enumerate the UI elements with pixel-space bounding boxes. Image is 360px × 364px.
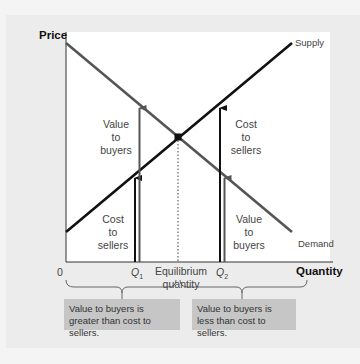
text-line: to [230,226,268,239]
q2-main: Q [216,266,224,278]
text-line: to [98,131,134,144]
text-line: to [226,131,266,144]
text-line: buyers [98,144,134,157]
left-note-box: Value to buyers is greater than cost to … [64,299,180,330]
q2-sub: 2 [224,273,228,280]
right-note-box: Value to buyers is less than cost to sel… [192,299,296,330]
origin-label: 0 [57,266,63,278]
q1-sub: 1 [139,273,143,280]
demand-label: Demand [298,238,334,249]
left-cost-to-sellers: Cost to sellers [94,213,132,252]
text-line: buyers [230,239,268,252]
text-line: sellers [94,239,132,252]
x-axis-title: Quantity [296,265,343,277]
text-line: sellers [226,144,266,157]
text-line: to [94,226,132,239]
supply-demand-chart [0,0,360,364]
right-value-to-buyers: Value to buyers [230,213,268,252]
equilibrium-point [175,134,182,141]
equilibrium-quantity-label: Equilibrium quantity [153,265,209,291]
q2-tick-label: Q2 [216,266,228,280]
text-line: Cost [94,213,132,226]
right-cost-to-sellers: Cost to sellers [226,118,266,157]
q1-main: Q [131,266,139,278]
q1-tick-label: Q1 [131,266,143,280]
equilibrium-line1: Equilibrium [153,265,209,278]
left-value-to-buyers: Value to buyers [98,118,134,157]
text-line: Value [98,118,134,131]
supply-label: Supply [295,37,324,48]
text-line: Value [230,213,268,226]
equilibrium-line2: quantity [153,278,209,291]
y-axis-title: Price [39,29,67,41]
text-line: Cost [226,118,266,131]
